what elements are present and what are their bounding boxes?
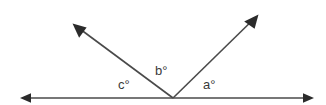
baseline-right-arrowhead	[303, 93, 314, 103]
angle-label-c: c°	[118, 78, 130, 91]
angle-label-a: a°	[203, 78, 215, 91]
baseline-group	[20, 93, 314, 103]
ray-upper-left-arrowhead	[73, 24, 87, 38]
angle-diagram: c° b° a°	[0, 0, 326, 105]
baseline-left-arrowhead	[20, 93, 31, 103]
ray-upper-right-group	[173, 15, 259, 99]
geometry-canvas	[0, 0, 326, 105]
angle-label-b: b°	[155, 64, 167, 77]
